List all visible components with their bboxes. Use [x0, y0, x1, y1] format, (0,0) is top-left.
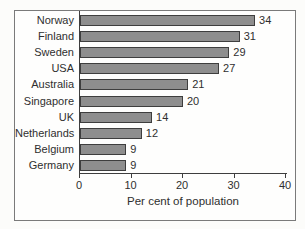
bar-row: USA27 [15, 61, 295, 77]
bar [80, 144, 126, 155]
y-axis-line [79, 11, 80, 174]
bar [80, 79, 188, 90]
x-tick-mark [285, 174, 286, 178]
x-tick-label: 20 [169, 179, 195, 191]
bar-row: Finland31 [15, 28, 295, 44]
value-label: 29 [233, 47, 245, 58]
bar-row: UK14 [15, 109, 295, 125]
x-axis-label: Per cent of population [79, 195, 287, 207]
bar [80, 128, 142, 139]
category-label: Netherlands [15, 128, 79, 139]
value-label: 31 [244, 31, 256, 42]
x-tick-mark [131, 174, 132, 178]
category-label: Sweden [15, 47, 79, 58]
bar [80, 15, 255, 26]
value-label: 27 [223, 63, 235, 74]
x-tick-label: 30 [221, 179, 247, 191]
bar [80, 160, 126, 171]
bar-row: Sweden29 [15, 44, 295, 60]
category-label: Finland [15, 31, 79, 42]
x-tick-label: 0 [66, 179, 92, 191]
category-label: USA [15, 63, 79, 74]
bar-row: Norway34 [15, 12, 295, 28]
bar-row: Singapore20 [15, 93, 295, 109]
bar-row: Netherlands12 [15, 125, 295, 141]
bar [80, 112, 152, 123]
bar [80, 63, 219, 74]
value-label: 20 [187, 96, 199, 107]
category-label: Australia [15, 79, 79, 90]
category-label: Norway [15, 15, 79, 26]
bar-row: Germany9 [15, 158, 295, 174]
bar [80, 47, 229, 58]
value-label: 14 [156, 112, 168, 123]
value-label: 21 [192, 79, 204, 90]
bar [80, 31, 240, 42]
x-tick-mark [182, 174, 183, 178]
value-label: 34 [259, 15, 271, 26]
figure: Norway34Finland31Sweden29USA27Australia2… [0, 0, 305, 229]
value-label: 9 [130, 144, 136, 155]
value-label: 12 [146, 128, 158, 139]
bar-row: Australia21 [15, 77, 295, 93]
x-tick-mark [234, 174, 235, 178]
category-label: UK [15, 112, 79, 123]
chart-frame: Norway34Finland31Sweden29USA27Australia2… [14, 10, 296, 221]
x-tick-label: 10 [118, 179, 144, 191]
bar-rows: Norway34Finland31Sweden29USA27Australia2… [15, 12, 295, 174]
value-label: 9 [130, 160, 136, 171]
category-label: Germany [15, 160, 79, 171]
bar-row: Belgium9 [15, 142, 295, 158]
category-label: Singapore [15, 96, 79, 107]
x-tick-label: 40 [272, 179, 298, 191]
x-tick-mark [79, 174, 80, 178]
x-axis-line [79, 173, 287, 174]
category-label: Belgium [15, 144, 79, 155]
bar [80, 96, 183, 107]
